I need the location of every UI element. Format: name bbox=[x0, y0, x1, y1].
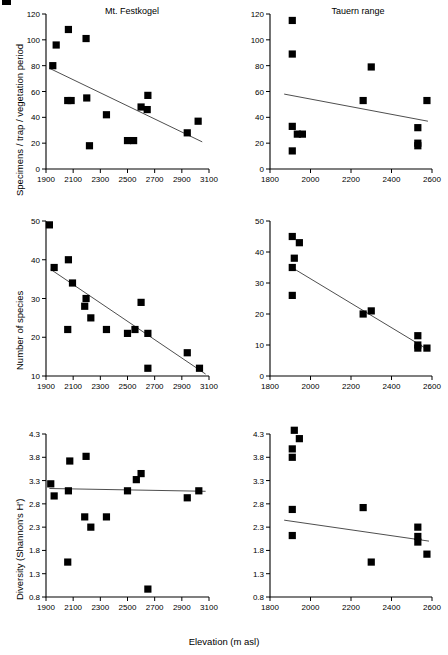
data-point bbox=[368, 307, 375, 314]
y-tick-label: 50 bbox=[255, 217, 264, 226]
data-point bbox=[289, 264, 296, 271]
data-point bbox=[47, 480, 54, 487]
panel-title: Tauern range bbox=[331, 6, 384, 16]
y-tick-label: 20 bbox=[31, 333, 40, 342]
plot-area-top-left: 0204060801001201900210023002500270029003… bbox=[27, 6, 219, 184]
panel-middle-left: 10203040501900210023002500270029003100 bbox=[0, 207, 230, 412]
x-tick-label: 2200 bbox=[342, 603, 360, 612]
data-point bbox=[368, 558, 375, 565]
data-point bbox=[289, 532, 296, 539]
y-tick-label: 80 bbox=[31, 62, 40, 71]
data-point bbox=[124, 330, 131, 337]
data-point bbox=[144, 330, 151, 337]
data-point bbox=[103, 513, 110, 520]
y-tick-label: 3.3 bbox=[29, 477, 41, 486]
y-tick-label: 30 bbox=[255, 279, 264, 288]
data-point bbox=[423, 551, 430, 558]
data-point bbox=[299, 131, 306, 138]
x-tick-label: 2000 bbox=[302, 603, 320, 612]
data-point bbox=[51, 492, 58, 499]
x-axis-label-elevation: Elevation (m asl) bbox=[0, 636, 448, 647]
data-point bbox=[289, 506, 296, 513]
data-point bbox=[64, 558, 71, 565]
panel-top-left: 0204060801001201900210023002500270029003… bbox=[0, 0, 230, 205]
x-tick-label: 2600 bbox=[423, 382, 441, 391]
plot-area-top-right: 02040608010012018002000220024002600Tauer… bbox=[251, 6, 442, 184]
plot-area-bottom-left: 0.81.31.82.32.83.33.84.31900210023002500… bbox=[29, 430, 219, 612]
y-tick-label: 1.8 bbox=[29, 546, 41, 555]
x-tick-label: 2000 bbox=[302, 175, 320, 184]
data-point bbox=[414, 332, 421, 339]
data-point bbox=[289, 233, 296, 240]
data-point bbox=[144, 585, 151, 592]
data-point bbox=[195, 487, 202, 494]
x-tick-label: 1900 bbox=[37, 175, 55, 184]
plot-area-middle-left: 10203040501900210023002500270029003100 bbox=[31, 217, 218, 391]
y-tick-label: 40 bbox=[31, 256, 40, 265]
x-tick-label: 2000 bbox=[302, 382, 320, 391]
regression-line bbox=[292, 268, 428, 350]
data-point bbox=[51, 264, 58, 271]
x-tick-label: 3100 bbox=[200, 382, 218, 391]
x-tick-label: 2100 bbox=[64, 175, 82, 184]
x-tick-label: 1800 bbox=[261, 382, 279, 391]
y-tick-label: 3.8 bbox=[29, 453, 41, 462]
x-tick-label: 2500 bbox=[119, 382, 137, 391]
y-tick-label: 2.8 bbox=[29, 500, 41, 509]
data-point bbox=[291, 255, 298, 262]
data-point bbox=[423, 345, 430, 352]
data-point bbox=[289, 454, 296, 461]
x-tick-label: 2900 bbox=[173, 603, 191, 612]
data-point bbox=[86, 142, 93, 149]
data-point bbox=[82, 453, 89, 460]
data-point bbox=[131, 326, 138, 333]
data-point bbox=[196, 365, 203, 372]
data-point bbox=[289, 445, 296, 452]
data-point bbox=[184, 494, 191, 501]
y-tick-label: 1.3 bbox=[253, 570, 265, 579]
x-tick-label: 2300 bbox=[91, 603, 109, 612]
data-point bbox=[124, 487, 131, 494]
data-point bbox=[53, 41, 60, 48]
y-tick-label: 60 bbox=[255, 88, 264, 97]
axis-frame bbox=[46, 14, 209, 169]
y-tick-label: 10 bbox=[255, 341, 264, 350]
data-point bbox=[83, 94, 90, 101]
data-point bbox=[64, 326, 71, 333]
x-tick-label: 2900 bbox=[173, 382, 191, 391]
y-tick-label: 60 bbox=[31, 88, 40, 97]
y-tick-label: 1.8 bbox=[253, 546, 265, 555]
y-tick-label: 40 bbox=[255, 113, 264, 122]
data-point bbox=[81, 303, 88, 310]
data-point bbox=[87, 314, 94, 321]
data-point bbox=[144, 365, 151, 372]
data-point bbox=[81, 513, 88, 520]
x-tick-label: 2200 bbox=[342, 175, 360, 184]
regression-line bbox=[284, 94, 428, 121]
data-point bbox=[65, 256, 72, 263]
y-tick-label: 120 bbox=[251, 10, 265, 19]
y-tick-label: 100 bbox=[251, 36, 265, 45]
data-point bbox=[68, 97, 75, 104]
data-point bbox=[291, 427, 298, 434]
data-point bbox=[144, 106, 151, 113]
data-point bbox=[103, 111, 110, 118]
x-tick-label: 1800 bbox=[261, 175, 279, 184]
x-tick-label: 2500 bbox=[119, 603, 137, 612]
panel-middle-right: 0102030405018002000220024002600 bbox=[228, 207, 448, 412]
data-point bbox=[69, 279, 76, 286]
data-point bbox=[368, 63, 375, 70]
y-tick-label: 40 bbox=[31, 113, 40, 122]
y-tick-label: 0.8 bbox=[29, 593, 41, 602]
x-tick-label: 1800 bbox=[261, 603, 279, 612]
y-tick-label: 2.8 bbox=[253, 500, 265, 509]
y-tick-label: 10 bbox=[31, 372, 40, 381]
x-tick-label: 2900 bbox=[173, 175, 191, 184]
data-point bbox=[289, 123, 296, 130]
data-point bbox=[87, 524, 94, 531]
x-tick-label: 2100 bbox=[64, 603, 82, 612]
y-tick-label: 3.8 bbox=[253, 453, 265, 462]
data-point bbox=[144, 92, 151, 99]
y-tick-label: 20 bbox=[31, 139, 40, 148]
data-point bbox=[296, 435, 303, 442]
